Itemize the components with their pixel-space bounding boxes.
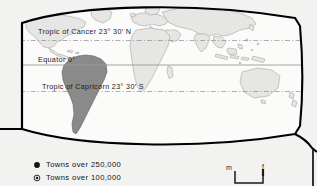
filled-circle-icon	[33, 161, 41, 169]
land-caribbean-2	[75, 52, 79, 54]
tropic-of-cancer-label: Tropic of Cancer 23° 30′ N	[38, 27, 131, 36]
land-tasmania	[261, 100, 265, 104]
land-pacific-islet-2	[257, 43, 259, 45]
circled-dot-icon	[33, 174, 41, 182]
land-borneo	[227, 48, 237, 55]
land-philippines	[238, 44, 243, 49]
land-pacific-islet-3	[251, 49, 253, 51]
legend-label-towns-over-100000: Towns over 100,000	[46, 173, 121, 182]
equator-label: Equator 0°	[38, 55, 76, 64]
scale-bar-unit-metric: m	[226, 164, 232, 171]
legend-label-towns-over-250000: Towns over 250,000	[46, 160, 121, 169]
land-pacific-islet-4	[239, 62, 241, 64]
world-map-figure: Tropic of Cancer 23° 30′ N Equator 0° Tr…	[0, 0, 317, 186]
tropic-of-capricorn-label: Tropic of Capricorn 23° 30′ S	[42, 82, 144, 91]
scale-bar-graphic	[233, 168, 281, 186]
legend-item-towns-over-250000: Towns over 250,000	[33, 158, 121, 171]
legend-item-towns-over-100000: Towns over 100,000	[33, 171, 121, 184]
map-legend: Towns over 250,000 Towns over 100,000	[33, 158, 121, 184]
